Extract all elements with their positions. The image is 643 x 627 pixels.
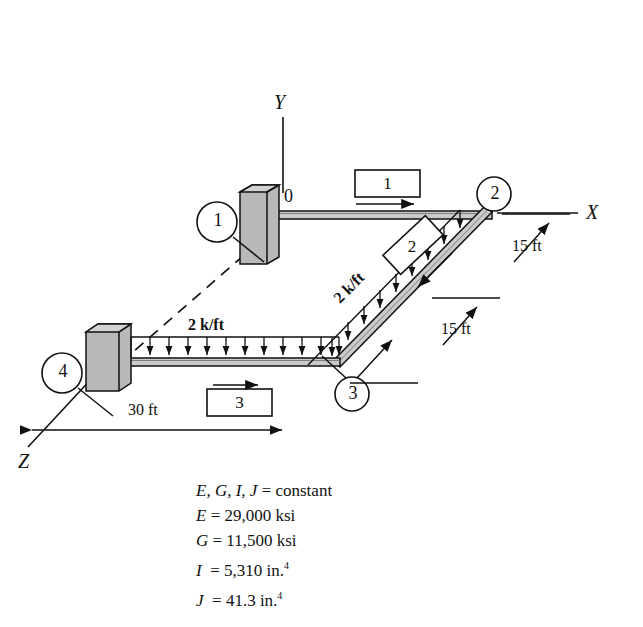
property-symbol-e: E [196,506,206,525]
property-value-j: = 41.3 in. [204,590,278,609]
support-wall-node-0 [240,185,279,264]
property-symbol-g: G [196,531,208,550]
member-label-3: 3 [207,393,272,413]
node-label-3: 3 [346,383,360,404]
node-label-1: 1 [211,210,225,231]
property-row-i: I = 5,310 in.4 [196,553,332,583]
load-label-member-3: 2 k/ft [188,316,224,334]
node-label-4: 4 [56,361,70,382]
property-row-j: J = 41.3 in.4 [196,583,332,613]
property-value-i: = 5,310 in. [202,561,284,580]
axis-label-x: X [586,201,598,224]
material-properties-block: E, G, I, J = constant E = 29,000 ksi G =… [196,478,332,612]
property-value-e: = 29,000 ksi [206,506,295,525]
support-wall-node-4 [86,324,131,391]
dimension-15ft-lower [350,298,500,383]
member-label-1: 1 [355,174,420,194]
property-value-g: = 11,500 ksi [208,531,296,550]
property-row-constant: E, G, I, J = constant [196,478,332,503]
property-symbol-j: J [196,590,204,609]
property-exponent-i: 4 [284,560,289,571]
property-row-e: E = 29,000 ksi [196,503,332,528]
distributed-load-member-3 [131,337,339,357]
property-value-constant: = constant [257,481,332,500]
property-exponent-j: 4 [277,590,282,601]
dimension-label-15ft-lower: 15 ft [441,320,471,338]
dimension-label-30ft: 30 ft [128,401,158,419]
axis-label-y: Y [274,91,285,114]
member-label-2: 2 [398,237,426,257]
property-row-g: G = 11,500 ksi [196,528,332,553]
figure-canvas: Y X Z 0 1 2 3 4 1 2 3 2 k/ft 2 k/ft 15 f… [0,0,643,627]
property-symbol-egij: E, G, I, J [196,481,257,500]
dimension-label-15ft-upper: 15 ft [512,237,542,255]
axis-label-z: Z [18,450,29,473]
node-label-0: 0 [284,186,293,207]
node-label-2: 2 [488,183,502,204]
